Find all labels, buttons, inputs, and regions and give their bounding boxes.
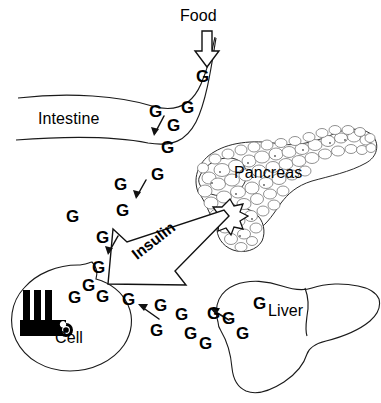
glucose-marker: G (184, 325, 197, 342)
glucose-marker: G (66, 208, 79, 225)
glucose-marker-layer: GGGGGGGGGGGGGGGGGGGGGGGG (0, 0, 381, 403)
glucose-marker: G (96, 229, 109, 246)
glucose-marker: G (167, 117, 180, 134)
glucose-marker: G (116, 202, 129, 219)
glucose-marker: G (92, 259, 105, 276)
glucose-marker: G (161, 139, 174, 156)
glucose-marker: G (68, 289, 81, 306)
glucose-marker: G (96, 288, 109, 305)
glucose-marker: G (236, 325, 249, 342)
glucose-marker: G (151, 166, 164, 183)
glucose-marker: G (82, 277, 95, 294)
glucose-marker: G (222, 310, 235, 327)
glucose-marker: G (154, 297, 167, 314)
glucose-marker: G (181, 99, 194, 116)
glucose-marker: G (149, 103, 162, 120)
glucose-marker: G (199, 335, 212, 352)
glucose-marker: G (175, 306, 188, 323)
glucose-marker: G (253, 295, 266, 312)
glucose-marker: G (196, 68, 209, 85)
glucose-marker: G (150, 322, 163, 339)
glucose-insulin-diagram: Food Intestine Pancreas Liver Cell Insul… (0, 0, 381, 403)
glucose-marker: G (207, 305, 220, 322)
glucose-marker: G (122, 291, 135, 308)
glucose-marker: G (114, 176, 127, 193)
